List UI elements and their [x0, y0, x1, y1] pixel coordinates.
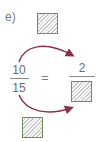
top-arrow-icon — [19, 46, 72, 62]
left-fraction-bar — [10, 78, 29, 79]
equals-sign: = — [41, 70, 49, 85]
bottom-operator-blank[interactable] — [22, 117, 43, 138]
left-denominator: 15 — [9, 81, 29, 95]
left-numerator: 10 — [9, 63, 29, 77]
bottom-arrow-icon — [19, 95, 71, 112]
right-fraction-bar — [69, 76, 95, 77]
right-numerator: 2 — [72, 61, 92, 75]
right-denominator-blank[interactable] — [71, 81, 92, 102]
